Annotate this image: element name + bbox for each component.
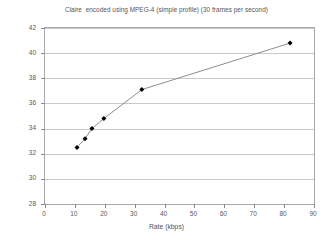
x-tick-mark [165, 204, 166, 208]
x-tick-label: 50 [183, 210, 203, 217]
x-tick-label: 70 [243, 210, 263, 217]
x-tick-mark [254, 204, 255, 208]
x-tick-mark [45, 204, 46, 208]
y-tick-label: 32 [16, 149, 36, 156]
x-tick-label: 40 [154, 210, 174, 217]
x-tick-mark [284, 204, 285, 208]
y-tick-label: 34 [16, 124, 36, 131]
plot-area [44, 27, 315, 205]
x-tick-mark [224, 204, 225, 208]
x-tick-mark [75, 204, 76, 208]
x-tick-label: 30 [124, 210, 144, 217]
y-tick-label: 28 [16, 200, 36, 207]
series-line [77, 43, 290, 147]
y-tick-label: 36 [16, 99, 36, 106]
chart-title: Claire encoded using MPEG-4 (simple prof… [0, 6, 333, 14]
data-series-line [45, 28, 314, 204]
y-tick-label: 42 [16, 24, 36, 31]
data-point-marker [288, 41, 293, 46]
x-tick-label: 90 [303, 210, 323, 217]
x-tick-label: 0 [34, 210, 54, 217]
x-tick-label: 60 [213, 210, 233, 217]
x-tick-label: 80 [273, 210, 293, 217]
y-tick-label: 40 [16, 49, 36, 56]
y-tick-label: 30 [16, 174, 36, 181]
y-tick-label: 38 [16, 74, 36, 81]
x-tick-label: 20 [94, 210, 114, 217]
x-tick-mark [105, 204, 106, 208]
x-axis-title: Rate (kbps) [0, 223, 333, 231]
x-tick-mark [135, 204, 136, 208]
x-tick-label: 10 [64, 210, 84, 217]
x-tick-mark [194, 204, 195, 208]
x-tick-mark [314, 204, 315, 208]
chart-container: Claire encoded using MPEG-4 (simple prof… [0, 0, 333, 248]
